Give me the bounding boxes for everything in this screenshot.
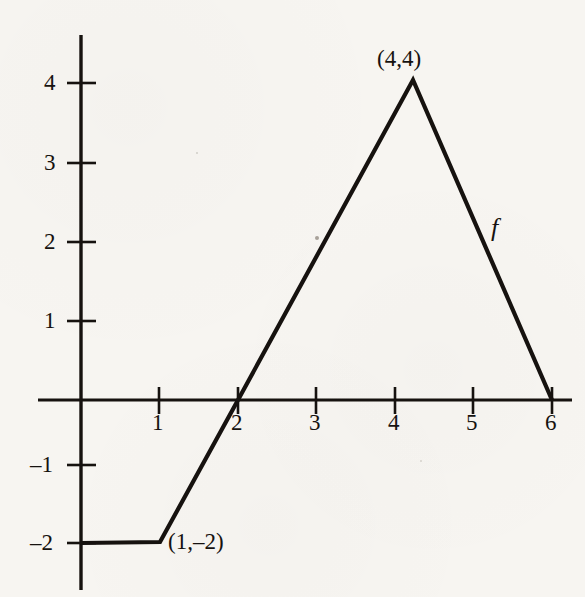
x-axis-tick-label-6: 6 <box>545 411 557 434</box>
x-axis-tick-label-1: 1 <box>152 411 164 434</box>
curve-label-f: f <box>491 215 498 241</box>
x-axis-tick-label-4: 4 <box>388 411 400 434</box>
axes-group <box>38 35 572 590</box>
x-axis-tick-label-5: 5 <box>466 411 478 434</box>
y-axis-tick-label-1: 1 <box>44 309 56 332</box>
y-axis-tick-label-4: 4 <box>44 71 56 94</box>
figure-page: 1 2 3 4 5 6 4 3 2 1 –1 –2 (4,4) (1,–2) f <box>0 0 585 597</box>
scan-speck <box>315 236 319 240</box>
x-axis-tick-label-2: 2 <box>231 411 243 434</box>
graph-canvas <box>0 0 585 597</box>
y-axis-tick-label-neg1: –1 <box>30 453 53 476</box>
scan-speck <box>420 460 422 462</box>
peak-point-label: (4,4) <box>377 47 421 70</box>
y-axis-tick-label-3: 3 <box>44 151 56 174</box>
corner-point-label: (1,–2) <box>168 530 224 553</box>
scan-speck <box>196 152 198 154</box>
function-curve-f <box>81 80 552 543</box>
y-axis-tick-label-2: 2 <box>44 230 56 253</box>
x-axis-tick-label-3: 3 <box>309 411 321 434</box>
y-axis-tick-label-neg2: –2 <box>30 531 53 554</box>
